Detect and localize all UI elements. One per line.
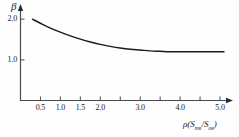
y-axis-label: β (11, 1, 16, 12)
axes (18, 4, 233, 103)
y-tick-label: 1.0 (1, 56, 17, 64)
x-axis-label-paren-close: ) (214, 119, 217, 129)
data-series-line (32, 19, 224, 52)
x-tick-label: 2.0 (96, 104, 105, 112)
x-tick-label: 0.5 (36, 104, 45, 112)
x-tick-label: 1.0 (56, 104, 65, 112)
plot-canvas (0, 0, 239, 137)
x-axis-arrow-icon (226, 98, 233, 103)
y-axis-arrow-icon (18, 4, 23, 11)
x-tick-label: 4.0 (175, 104, 184, 112)
y-tick-label: 2.0 (1, 15, 17, 23)
chart-figure: β ρ(Sтк/Sок) 0.51.01.52.03.04.05.0 1.02.… (0, 0, 239, 137)
x-axis-label: ρ(Sтк/Sок) (183, 120, 217, 131)
x-tick-label: 5.0 (215, 104, 224, 112)
x-tick-label: 3.0 (136, 104, 145, 112)
x-tick-label: 1.5 (76, 104, 85, 112)
